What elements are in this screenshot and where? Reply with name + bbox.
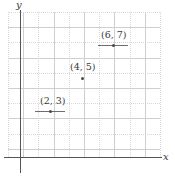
data-point-label: (2, 3) bbox=[40, 96, 66, 106]
y-axis bbox=[20, 10, 21, 173]
gridline-vertical bbox=[130, 12, 131, 157]
gridline-horizontal bbox=[8, 73, 160, 74]
gridline-horizontal bbox=[8, 27, 160, 28]
gridline-vertical bbox=[69, 12, 70, 157]
data-point bbox=[112, 44, 115, 47]
gridline-horizontal bbox=[8, 149, 160, 150]
gridline-horizontal bbox=[8, 134, 160, 135]
gridline-vertical bbox=[54, 12, 55, 157]
gridline-vertical bbox=[84, 12, 85, 157]
gridline-vertical bbox=[23, 12, 24, 157]
data-point-label: (6, 7) bbox=[101, 30, 127, 40]
gridline-vertical bbox=[38, 12, 39, 157]
gridline-vertical bbox=[8, 12, 9, 157]
gridline-horizontal bbox=[8, 103, 160, 104]
gridline-horizontal bbox=[8, 58, 160, 59]
gridline-horizontal bbox=[8, 118, 160, 119]
gridline-horizontal bbox=[8, 12, 160, 13]
data-point-label: (4, 5) bbox=[70, 62, 96, 72]
gridline-vertical bbox=[160, 12, 161, 157]
gridline-horizontal bbox=[8, 42, 160, 43]
gridline-vertical bbox=[145, 12, 146, 157]
x-axis bbox=[4, 157, 162, 158]
y-axis-label: y bbox=[16, 0, 22, 10]
gridline-horizontal bbox=[8, 88, 160, 89]
data-point bbox=[49, 110, 52, 113]
chart-gridlines bbox=[8, 12, 160, 157]
coordinate-plane-figure: y x (2, 3)(4, 5)(6, 7) bbox=[0, 0, 175, 176]
data-point bbox=[81, 77, 84, 80]
x-axis-label: x bbox=[163, 152, 169, 162]
